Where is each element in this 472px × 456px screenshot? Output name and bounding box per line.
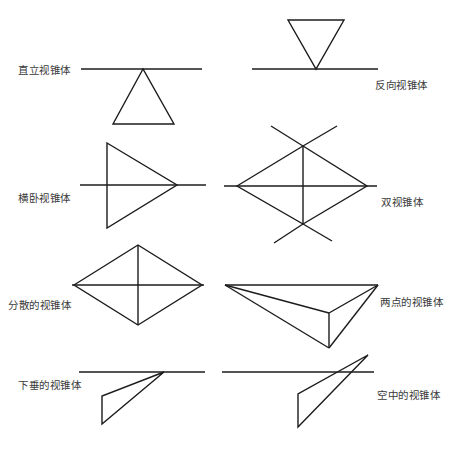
frustum-outline bbox=[102, 372, 164, 424]
label-double-frustum: 双视锥体 bbox=[381, 196, 423, 208]
frustum-figure-two-point bbox=[225, 285, 378, 348]
frustum-figure-lying bbox=[80, 143, 206, 228]
reference-line bbox=[271, 126, 303, 146]
reference-line bbox=[274, 224, 303, 243]
frustum-outline bbox=[298, 355, 368, 427]
label-scattered-frustum: 分散的视锥体 bbox=[8, 299, 71, 311]
frustum-figure-upright bbox=[81, 69, 202, 124]
frustum-figure-inverted bbox=[252, 20, 378, 69]
reference-line bbox=[329, 285, 378, 348]
label-two-point-frustum: 两点的视锥体 bbox=[380, 296, 443, 308]
label-inverted-frustum: 反向视锥体 bbox=[375, 79, 428, 91]
view-frustum-diagram-sheet: 直立视锥体 反向视锥体 横卧视锥体 双视锥体 分散的视锥体 两点的视锥体 下垂的… bbox=[0, 0, 472, 456]
label-aerial-frustum: 空中的视锥体 bbox=[377, 389, 440, 401]
frustum-outline bbox=[288, 20, 344, 69]
frustum-outline bbox=[113, 69, 174, 124]
reference-line bbox=[329, 285, 378, 313]
frustum-figure-drooping bbox=[79, 372, 205, 424]
label-lying-frustum: 横卧视锥体 bbox=[18, 192, 71, 204]
reference-line bbox=[303, 126, 337, 146]
reference-line bbox=[225, 285, 329, 313]
frustum-figure-scattered bbox=[72, 245, 204, 325]
label-upright-frustum: 直立视锥体 bbox=[18, 64, 71, 76]
label-drooping-frustum: 下垂的视锥体 bbox=[18, 379, 81, 391]
reference-line bbox=[225, 285, 329, 348]
reference-line bbox=[303, 224, 332, 241]
frustum-figure-double bbox=[224, 126, 377, 243]
frustum-figure-aerial bbox=[222, 355, 374, 427]
frustum-outline bbox=[237, 146, 367, 224]
